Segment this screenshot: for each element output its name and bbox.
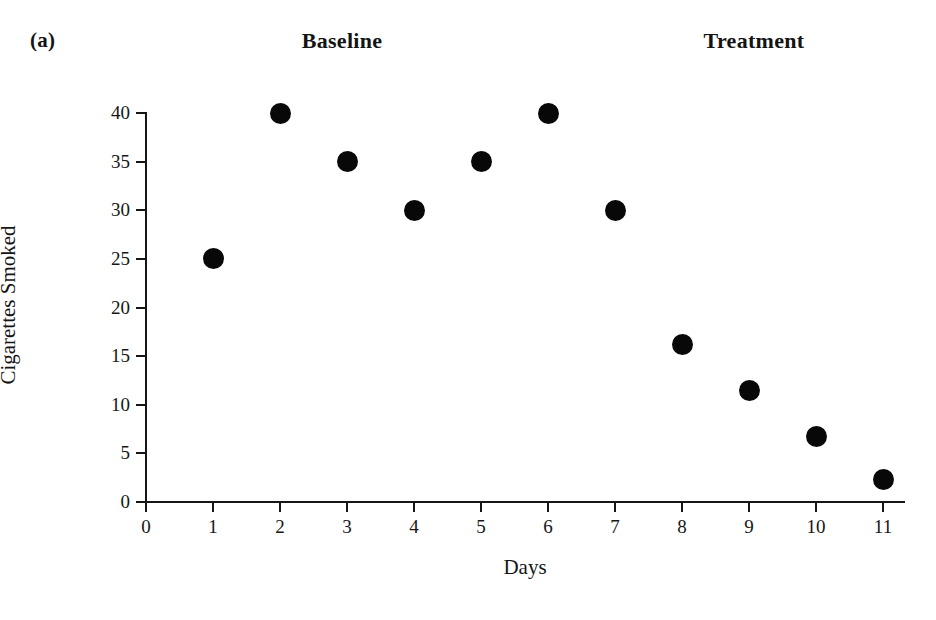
data-point-day-7: [605, 200, 626, 221]
data-point-day-6: [538, 103, 559, 124]
x-axis-line: [145, 501, 905, 503]
data-point-day-11: [873, 469, 894, 490]
y-tick-20: [136, 307, 145, 309]
data-point-day-1: [203, 248, 224, 269]
y-tick-15: [136, 355, 145, 357]
y-axis-line: [145, 112, 147, 504]
x-tick-1: [212, 503, 214, 512]
x-tick-6: [547, 503, 549, 512]
x-tick-2: [279, 503, 281, 512]
x-tick-label-6: 6: [543, 516, 553, 538]
y-tick-label-10: 10: [0, 394, 130, 416]
y-tick-5: [136, 452, 145, 454]
y-tick-35: [136, 161, 145, 163]
y-tick-25: [136, 258, 145, 260]
x-tick-label-5: 5: [476, 516, 486, 538]
data-point-day-2: [270, 103, 291, 124]
x-tick-label-8: 8: [677, 516, 687, 538]
x-tick-5: [480, 503, 482, 512]
figure-panel-a: (a) Baseline Treatment 0510152025303540 …: [0, 0, 936, 620]
y-tick-10: [136, 404, 145, 406]
x-tick-11: [882, 503, 884, 512]
data-point-day-5: [471, 151, 492, 172]
data-point-day-8: [672, 334, 693, 355]
x-tick-8: [681, 503, 683, 512]
y-tick-label-5: 5: [0, 442, 130, 464]
x-tick-label-1: 1: [208, 516, 218, 538]
x-axis-title: Days: [503, 555, 546, 580]
y-tick-40: [136, 112, 145, 114]
data-point-day-3: [337, 151, 358, 172]
y-tick-label-40: 40: [0, 102, 130, 124]
x-tick-0: [145, 503, 147, 512]
x-tick-label-0: 0: [141, 516, 151, 538]
y-tick-0: [136, 501, 145, 503]
x-tick-label-9: 9: [744, 516, 754, 538]
data-point-day-10: [806, 426, 827, 447]
y-tick-label-35: 35: [0, 151, 130, 173]
x-tick-label-7: 7: [610, 516, 620, 538]
data-point-day-4: [404, 200, 425, 221]
y-tick-30: [136, 209, 145, 211]
scatter-plot-area: 0510152025303540 01234567891011 Cigarett…: [0, 0, 936, 620]
x-tick-label-3: 3: [342, 516, 352, 538]
x-tick-label-11: 11: [874, 516, 892, 538]
x-tick-label-4: 4: [409, 516, 419, 538]
y-axis-title: Cigarettes Smoked: [0, 225, 21, 384]
data-point-day-9: [739, 380, 760, 401]
x-tick-7: [614, 503, 616, 512]
x-tick-label-2: 2: [275, 516, 285, 538]
x-tick-9: [748, 503, 750, 512]
x-tick-3: [346, 503, 348, 512]
x-tick-4: [413, 503, 415, 512]
x-tick-10: [815, 503, 817, 512]
y-tick-label-30: 30: [0, 199, 130, 221]
x-tick-label-10: 10: [807, 516, 826, 538]
y-tick-label-0: 0: [0, 491, 130, 513]
